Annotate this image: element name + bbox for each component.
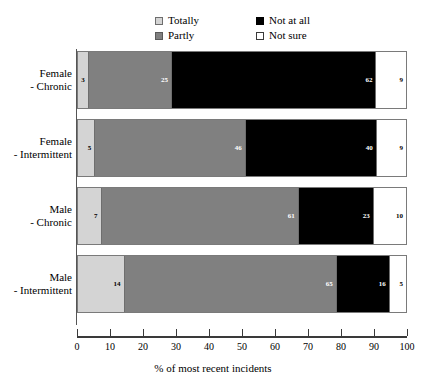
bar-segment-partly: 46 (95, 120, 246, 176)
category-label-line1: Male (0, 271, 72, 284)
x-axis-tick-label: 0 (75, 342, 80, 352)
bar-segment-not-sure: 5 (390, 256, 406, 312)
category-label-line2: - Intermittent (0, 148, 72, 161)
bar-value-label: 3 (81, 77, 85, 84)
bar-segment-partly: 65 (125, 256, 337, 312)
x-axis-tick (407, 329, 408, 336)
bar-value-label: 10 (396, 213, 403, 220)
bar-segment-partly: 61 (102, 188, 299, 244)
bar-segment-partly: 25 (89, 52, 172, 108)
x-axis-tick (77, 329, 78, 336)
x-axis-tick-label: 70 (303, 342, 313, 352)
x-axis-tick (176, 329, 177, 336)
legend-item-not-sure: Not sure (256, 29, 310, 42)
bar-value-label: 5 (400, 281, 404, 288)
category-label-line1: Male (0, 203, 72, 216)
legend-swatch-not-at-all-icon (256, 17, 264, 25)
category-label-line2: - Chronic (0, 80, 72, 93)
stacked-bar-chart: Totally Partly Not at all Not sure Femal… (0, 0, 426, 384)
bar-segment-not-at-all: 40 (246, 120, 377, 176)
category-label-female-intermittent: Female - Intermittent (0, 135, 72, 161)
table-row: 5 46 40 9 (77, 119, 407, 177)
x-axis-tick (374, 329, 375, 336)
bar-segment-not-sure: 9 (376, 52, 406, 108)
x-axis-tick-label: 10 (105, 342, 115, 352)
bar-value-label: 14 (114, 281, 121, 288)
legend-label-not-at-all: Not at all (269, 15, 310, 26)
bar-segment-totally: 14 (78, 256, 125, 312)
legend-label-partly: Partly (168, 30, 194, 41)
category-label-line1: Female (0, 67, 72, 80)
bar-value-label: 65 (326, 281, 333, 288)
category-label-line2: - Intermittent (0, 284, 72, 297)
table-row: 7 61 23 10 (77, 187, 407, 245)
x-axis-tick-label: 30 (171, 342, 181, 352)
x-axis-tick (209, 329, 210, 336)
table-row: 14 65 16 5 (77, 255, 407, 313)
bar-segment-not-at-all: 23 (299, 188, 374, 244)
x-axis-tick (275, 329, 276, 336)
category-label-line1: Female (0, 135, 72, 148)
x-axis-tick (110, 329, 111, 336)
x-axis-tick-label: 100 (400, 342, 415, 352)
category-label-male-intermittent: Male - Intermittent (0, 271, 72, 297)
x-axis-tick (341, 329, 342, 336)
legend-swatch-not-sure-icon (256, 32, 264, 40)
x-axis-tick-label: 80 (336, 342, 346, 352)
bar-segment-not-at-all: 16 (337, 256, 390, 312)
chart-legend: Totally Partly Not at all Not sure (155, 14, 405, 44)
legend-label-not-sure: Not sure (269, 30, 307, 41)
legend-swatch-totally-icon (155, 17, 163, 25)
bar-value-label: 61 (288, 213, 295, 220)
legend-label-totally: Totally (168, 15, 199, 26)
x-axis-tick-label: 50 (237, 342, 247, 352)
bar-value-label: 25 (161, 77, 168, 84)
category-label-male-chronic: Male - Chronic (0, 203, 72, 229)
plot-area: 3 25 62 9 5 46 40 9 (77, 49, 407, 325)
category-label-line2: - Chronic (0, 216, 72, 229)
legend-item-not-at-all: Not at all (256, 14, 310, 27)
x-axis-title: % of most recent incidents (0, 362, 426, 374)
bar-segment-not-sure: 9 (377, 120, 406, 176)
table-row: 3 25 62 9 (77, 51, 407, 109)
legend-swatch-partly-icon (155, 32, 163, 40)
x-axis-tick-label: 90 (369, 342, 379, 352)
y-axis-category-labels: Female - Chronic Female - Intermittent M… (0, 49, 72, 325)
legend-column-left: Totally Partly (155, 14, 199, 44)
bar-value-label: 23 (363, 213, 370, 220)
legend-item-partly: Partly (155, 29, 199, 42)
bar-value-label: 46 (235, 145, 242, 152)
x-axis-tick (308, 329, 309, 336)
bar-segment-totally: 7 (78, 188, 102, 244)
x-axis-tick (143, 329, 144, 336)
x-axis-tick-label: 60 (270, 342, 280, 352)
x-axis-tick-label: 40 (204, 342, 214, 352)
bar-value-label: 9 (400, 77, 404, 84)
legend-column-right: Not at all Not sure (256, 14, 310, 44)
bar-value-label: 9 (400, 145, 404, 152)
bar-segment-not-at-all: 62 (172, 52, 377, 108)
x-axis-tick-label: 20 (138, 342, 148, 352)
bar-value-label: 7 (94, 213, 98, 220)
bar-value-label: 16 (379, 281, 386, 288)
bar-value-label: 62 (365, 77, 372, 84)
bar-segment-totally: 3 (78, 52, 89, 108)
bar-value-label: 40 (366, 145, 373, 152)
bar-segment-not-sure: 10 (374, 188, 406, 244)
x-axis: 0 10 20 30 40 50 60 70 80 90 100 (77, 336, 407, 338)
category-label-female-chronic: Female - Chronic (0, 67, 72, 93)
x-axis-tick (242, 329, 243, 336)
bar-value-label: 5 (88, 145, 92, 152)
bar-segment-totally: 5 (78, 120, 95, 176)
legend-item-totally: Totally (155, 14, 199, 27)
